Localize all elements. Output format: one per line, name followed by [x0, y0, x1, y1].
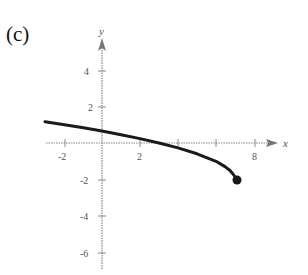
y-tick-label: 4 [84, 66, 89, 77]
y-tick-label: -6 [80, 248, 88, 259]
x-tick-label: 8 [252, 151, 257, 162]
y-axis [98, 38, 106, 270]
chart: -2 2 8 4 2 -2 -4 -6 x y [0, 0, 308, 275]
x-axis-label: x [282, 137, 288, 149]
y-tick-label: 2 [88, 102, 93, 113]
x-tick-label: -2 [58, 151, 66, 162]
x-axis-arrow-icon [266, 139, 278, 147]
y-tick-label: -2 [80, 175, 88, 186]
endpoint-dot [233, 176, 242, 185]
y-tick-label: -4 [80, 211, 88, 222]
y-axis-label: y [98, 25, 104, 37]
x-tick-label: 2 [137, 151, 142, 162]
y-axis-arrow-icon [98, 38, 106, 51]
